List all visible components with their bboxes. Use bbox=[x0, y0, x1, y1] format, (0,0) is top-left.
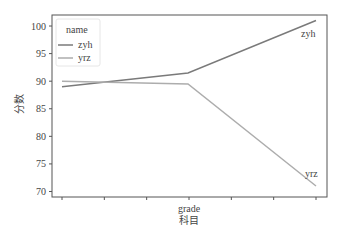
y-tick-label: 70 bbox=[36, 186, 46, 197]
legend-label-yrz: yrz bbox=[78, 52, 91, 63]
annotation-yrz: yrz bbox=[305, 168, 318, 179]
y-tick-label: 80 bbox=[36, 131, 46, 142]
legend-label-zyh: zyh bbox=[78, 39, 92, 50]
legend: name zyh yrz bbox=[56, 19, 100, 66]
y-axis-label: 分数 bbox=[13, 94, 25, 114]
annotation-zyh: zyh bbox=[301, 28, 315, 39]
legend-title: name bbox=[66, 24, 88, 35]
y-tick-label: 95 bbox=[36, 48, 46, 59]
x-axis-label-cn: 科目 bbox=[179, 214, 199, 226]
y-tick-label: 90 bbox=[36, 76, 46, 87]
x-axis-label-en: grade bbox=[178, 203, 201, 214]
y-axis: 707580859095100 bbox=[31, 21, 52, 197]
y-tick-label: 85 bbox=[36, 103, 46, 114]
series-line-yrz bbox=[62, 81, 316, 186]
line-chart: 707580859095100 zyh yrz name zyh yrz gra… bbox=[0, 0, 350, 242]
y-tick-label: 75 bbox=[36, 158, 46, 169]
y-tick-label: 100 bbox=[31, 21, 46, 32]
